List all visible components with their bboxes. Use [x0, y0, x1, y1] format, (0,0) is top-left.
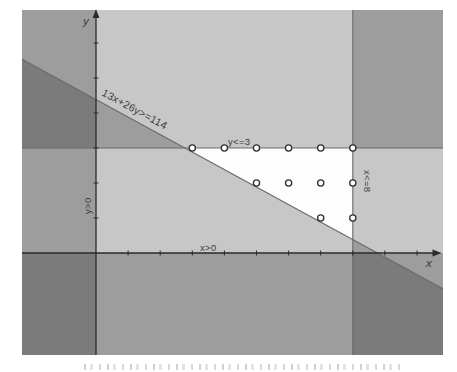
infeasible-shading-group — [22, 10, 443, 355]
lattice-point-4-3 — [221, 145, 227, 151]
lattice-point-5-3 — [253, 145, 259, 151]
lattice-point-3-3 — [189, 145, 195, 151]
constraint-label-y-3: y<=3 — [228, 136, 250, 147]
lattice-point-8-3 — [350, 145, 356, 151]
constraint-label-y-0: y>0 — [82, 198, 93, 214]
lattice-point-8-2 — [350, 180, 356, 186]
lattice-point-8-1 — [350, 215, 356, 221]
graph-figure: 13x+26y>=114y<=3x<=8x>0y>0yx — [0, 0, 457, 372]
cropped-caption-remnant — [84, 364, 406, 370]
constraint-label-x-0: x>0 — [200, 242, 216, 253]
x-axis-label: x — [425, 257, 433, 269]
y-axis-label: y — [82, 15, 90, 27]
lattice-point-6-2 — [286, 180, 292, 186]
lattice-point-5-2 — [253, 180, 259, 186]
lattice-point-7-3 — [318, 145, 324, 151]
shaded-region-y-0 — [22, 253, 443, 355]
lattice-point-6-3 — [286, 145, 292, 151]
constraint-label-x-8: x<=8 — [362, 170, 373, 192]
lattice-point-7-1 — [318, 215, 324, 221]
graph-svg: 13x+26y>=114y<=3x<=8x>0y>0yx — [0, 0, 457, 372]
lattice-point-7-2 — [318, 180, 324, 186]
